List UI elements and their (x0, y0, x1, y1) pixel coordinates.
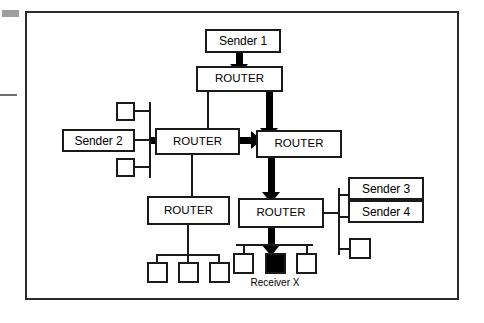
bus-right-segment (338, 188, 340, 255)
host-upper-left[interactable] (116, 102, 135, 121)
link-router-bottom-left-to-lan (187, 225, 189, 255)
node-sender-3-label: Sender 3 (362, 183, 410, 195)
link-host-lower-left-to-bus (135, 166, 150, 168)
link-sender2-to-bus (135, 139, 150, 141)
receiver-x-label: Receiver X (225, 277, 325, 288)
flow-router-top-to-router-center (266, 92, 273, 130)
network-diagram: Sender 1 ROUTER Sender 2 (0, 0, 484, 323)
link-router-top-to-router-left (207, 92, 209, 133)
scan-artifact-middle (0, 94, 17, 96)
node-sender-1-label: Sender 1 (219, 35, 267, 47)
link-host-upper-left-to-bus (135, 110, 150, 112)
host-lower-left[interactable] (116, 158, 135, 177)
host-right-side[interactable] (349, 238, 371, 259)
node-router-bottom-left-label: ROUTER (164, 205, 213, 217)
node-router-left-label: ROUTER (173, 136, 222, 148)
host-lan-left-2[interactable] (178, 262, 199, 283)
node-sender-3[interactable]: Sender 3 (348, 177, 424, 200)
node-sender-4-label: Sender 4 (362, 206, 410, 218)
node-router-top[interactable]: ROUTER (196, 66, 283, 92)
node-router-bottom-left[interactable]: ROUTER (147, 196, 230, 225)
host-lan-right-1[interactable] (233, 253, 254, 274)
node-sender-1[interactable]: Sender 1 (205, 29, 281, 53)
node-router-center-label: ROUTER (274, 138, 323, 150)
scan-artifact-top (2, 10, 19, 17)
host-lan-left-1[interactable] (147, 262, 168, 283)
flow-router-center-to-router-bottom-right (268, 158, 275, 194)
host-receiver-x[interactable] (265, 253, 286, 274)
node-sender-2-label: Sender 2 (75, 135, 123, 147)
node-sender-4[interactable]: Sender 4 (348, 200, 424, 223)
link-router-left-to-router-bottom-left (191, 155, 193, 199)
diagram-frame: Sender 1 ROUTER Sender 2 (25, 11, 459, 300)
node-sender-2[interactable]: Sender 2 (62, 129, 135, 152)
node-router-bottom-right-label: ROUTER (256, 207, 305, 219)
node-router-center[interactable]: ROUTER (256, 130, 342, 158)
node-router-bottom-right[interactable]: ROUTER (238, 198, 324, 228)
bus-right-lan (236, 244, 313, 246)
node-router-left[interactable]: ROUTER (155, 128, 240, 155)
node-router-top-label: ROUTER (215, 73, 264, 85)
host-lan-right-3[interactable] (296, 253, 317, 274)
